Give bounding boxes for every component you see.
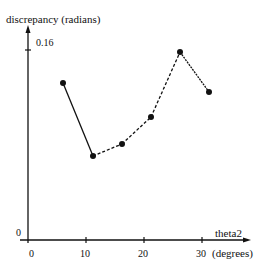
x-tick-label-20: 20 [138, 248, 148, 259]
chart: 0.16 0 0 10 20 30 discrepancy (radians) … [0, 0, 265, 272]
data-point-2 [90, 153, 96, 159]
x-axis-units: (degrees) [212, 247, 253, 260]
x-axis-label: theta2 [215, 227, 242, 239]
data-series [63, 52, 209, 156]
segment-4-5 [151, 52, 180, 117]
data-point-4 [148, 114, 154, 120]
segment-2-3 [93, 144, 122, 156]
y-tick-label-0: 0 [16, 227, 21, 238]
x-tick-label-0: 0 [29, 248, 34, 259]
y-axis-arrow-icon [26, 25, 31, 33]
data-point-6 [206, 89, 212, 95]
x-tick-label-10: 10 [80, 248, 90, 259]
data-point-5 [177, 49, 183, 55]
data-point-3 [119, 141, 125, 147]
segment-5-6 [180, 52, 209, 92]
x-axis-arrow-icon [243, 238, 251, 243]
data-point-1 [60, 80, 66, 86]
y-axis-label: discrepancy (radians) [6, 13, 101, 26]
y-tick-label-016: 0.16 [36, 37, 54, 48]
x-tick-label-30: 30 [196, 248, 206, 259]
segment-3-4 [122, 117, 151, 144]
segment-1-2 [63, 83, 93, 156]
